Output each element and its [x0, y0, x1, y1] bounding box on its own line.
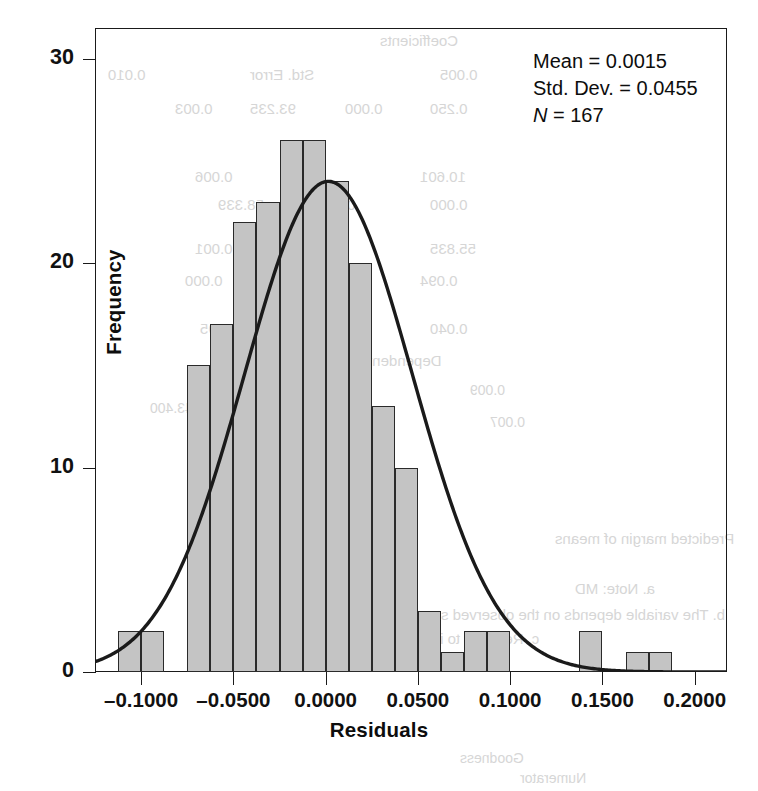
stats-n-value: = 167 — [547, 104, 603, 126]
y-axis-tick — [83, 59, 96, 60]
x-axis-tick — [326, 672, 327, 685]
x-axis-tick — [233, 672, 234, 685]
y-axis-tick-label: 0 — [12, 658, 74, 683]
y-axis-title: Frequency — [102, 182, 126, 422]
stats-mean: Mean = 0.0015 — [533, 48, 698, 75]
y-axis-tick-label: 10 — [12, 454, 74, 479]
y-axis-tick-label: 20 — [12, 249, 74, 274]
stats-annotation: Mean = 0.0015 Std. Dev. = 0.0455 N = 167 — [533, 48, 698, 129]
x-axis-tick — [141, 672, 142, 685]
x-axis-tick — [510, 672, 511, 685]
x-axis-tick — [695, 672, 696, 685]
y-axis-tick — [83, 263, 96, 264]
stats-n: N = 167 — [533, 102, 698, 129]
stats-n-symbol: N — [533, 104, 547, 126]
y-axis-tick — [83, 672, 96, 673]
x-axis-tick — [418, 672, 419, 685]
y-axis-tick — [83, 468, 96, 469]
x-axis-tick-label: 0.2000 — [635, 688, 755, 712]
stats-stddev: Std. Dev. = 0.0455 — [533, 75, 698, 102]
histogram-figure: 0102030 –0.1000–0.05000.00000.05000.1000… — [0, 0, 758, 791]
x-axis-title: Residuals — [0, 718, 758, 742]
y-axis-tick-label: 30 — [12, 45, 74, 70]
x-axis-tick — [602, 672, 603, 685]
